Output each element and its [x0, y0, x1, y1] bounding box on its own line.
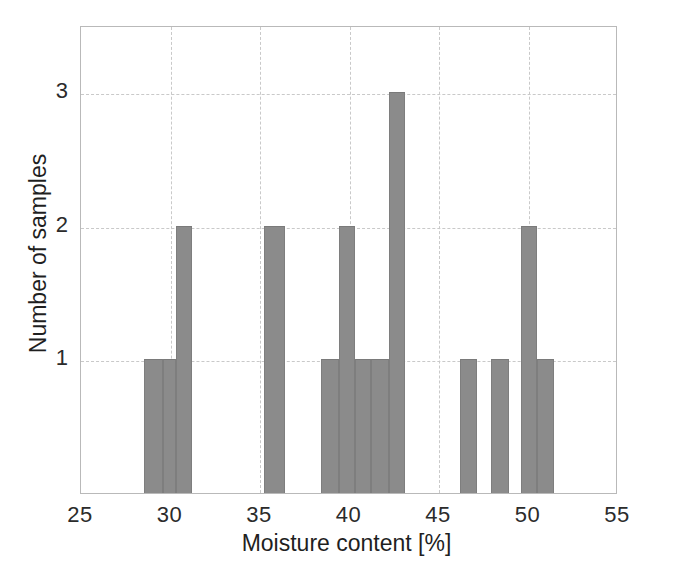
gridline-x-45	[439, 27, 440, 493]
histogram-bar	[537, 359, 553, 493]
histogram-bar	[460, 359, 476, 493]
x-tick-label: 55	[577, 502, 657, 528]
y-axis-title: Number of samples	[25, 154, 51, 353]
x-tick-label: 35	[219, 502, 299, 528]
x-axis-title: Moisture content [%]	[0, 530, 693, 557]
x-tick-label: 45	[398, 502, 478, 528]
histogram-bar	[521, 226, 537, 493]
histogram-bar	[355, 359, 371, 493]
plot-area	[80, 26, 617, 494]
x-tick-label: 30	[130, 502, 210, 528]
histogram-bar	[371, 359, 389, 493]
x-tick-label: 40	[309, 502, 389, 528]
histogram-bar	[163, 359, 176, 493]
x-tick-label: 25	[40, 502, 120, 528]
histogram-bar	[264, 226, 285, 493]
histogram-bar	[339, 226, 355, 493]
histogram-bar	[321, 359, 339, 493]
histogram-bar	[389, 92, 405, 493]
x-tick-label: 50	[488, 502, 568, 528]
gridline-y-3	[81, 94, 616, 95]
y-axis-title-wrapper: Number of samples	[25, 44, 52, 464]
histogram-figure: 25303540455055 123 Moisture content [%] …	[0, 0, 693, 575]
histogram-bar	[176, 226, 192, 493]
histogram-bar	[491, 359, 509, 493]
histogram-bar	[144, 359, 164, 493]
gridline-x-35	[260, 27, 261, 493]
